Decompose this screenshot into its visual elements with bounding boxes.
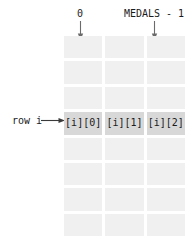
array-cell-highlighted: [i][0]	[64, 112, 102, 134]
array-grid: [i][0][i][1][i][2]	[64, 36, 185, 236]
array-cell	[147, 138, 185, 160]
array-cell	[147, 87, 185, 109]
row-index-label: row i	[12, 115, 42, 127]
array-diagram: 0 MEDALS - 1 row i [i][0][i][1][i][2]	[0, 0, 193, 238]
array-cell	[64, 188, 102, 210]
array-cell-highlighted: [i][1]	[105, 112, 143, 134]
array-cell	[147, 61, 185, 83]
array-cell-highlighted: [i][2]	[147, 112, 185, 134]
array-cell	[64, 61, 102, 83]
first-column-label: 0	[72, 8, 88, 20]
array-cell	[105, 36, 143, 58]
array-cell	[147, 36, 185, 58]
array-cell	[64, 36, 102, 58]
array-cell	[105, 138, 143, 160]
array-cell	[147, 214, 185, 236]
array-cell	[64, 214, 102, 236]
array-cell	[105, 214, 143, 236]
array-cell	[105, 61, 143, 83]
array-cell	[147, 163, 185, 185]
row-pointer-arrow-right-icon	[41, 114, 65, 127]
array-cell	[64, 87, 102, 109]
array-cell	[105, 163, 143, 185]
array-cell	[64, 163, 102, 185]
array-cell	[147, 188, 185, 210]
array-cell	[105, 188, 143, 210]
array-cell	[64, 138, 102, 160]
last-column-label: MEDALS - 1	[112, 8, 193, 20]
array-cell	[105, 87, 143, 109]
